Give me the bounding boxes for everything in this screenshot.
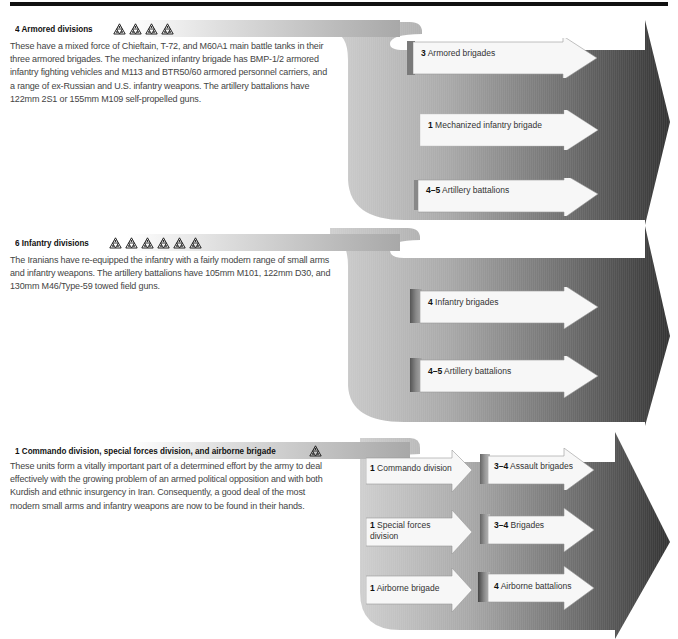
unit-arrow: 3–4 Assault brigades	[488, 448, 596, 490]
triangle-cluster-icon	[189, 237, 202, 249]
unit-arrow: 4–5 Artillery battalions	[420, 356, 600, 398]
section-title: 4 Armored divisions	[15, 24, 93, 34]
unit-arrow: 4 Airborne battalions	[488, 566, 596, 610]
unit-arrow: 3–4 Brigades	[488, 508, 596, 552]
section-header: 4 Armored divisions	[10, 20, 400, 37]
triangle-cluster-icon	[129, 23, 142, 35]
unit-arrow: 1 Mechanized infantry brigade	[420, 110, 600, 150]
triangle-cluster-icon	[125, 237, 138, 249]
section-description: These units form a vitally important par…	[10, 460, 350, 513]
section-description: The Iranians have re-equipped the infant…	[10, 254, 340, 294]
top-rule	[10, 2, 668, 6]
triangle-cluster-icon	[141, 237, 154, 249]
triangle-cluster-icon	[145, 23, 158, 35]
triangle-cluster-icon	[161, 23, 174, 35]
parent-unit-arrow: 1 Airborne brigade	[366, 568, 472, 612]
section-header: 6 Infantry divisions	[10, 234, 400, 251]
division-icons	[113, 23, 174, 35]
triangle-cluster-icon	[309, 445, 322, 457]
triangle-cluster-icon	[173, 237, 186, 249]
section-header: 1 Commando division, special forces divi…	[10, 442, 410, 459]
triangle-cluster-icon	[157, 237, 170, 249]
unit-arrow: 4 Infantry brigades	[420, 287, 600, 329]
division-icons	[309, 445, 322, 457]
division-icons	[109, 237, 202, 249]
section-title: 6 Infantry divisions	[15, 238, 89, 248]
parent-unit-arrow: 1 Special forces division	[366, 510, 472, 554]
section-description: These have a mixed force of Chieftain, T…	[10, 40, 340, 106]
parent-unit-arrow: 1 Commando division	[366, 450, 472, 492]
unit-arrow: 3 Armored brigades	[413, 38, 599, 78]
unit-arrow: 4–5 Artillery battalions	[418, 178, 600, 216]
section-title: 1 Commando division, special forces divi…	[15, 446, 276, 456]
triangle-cluster-icon	[109, 237, 122, 249]
triangle-cluster-icon	[113, 23, 126, 35]
